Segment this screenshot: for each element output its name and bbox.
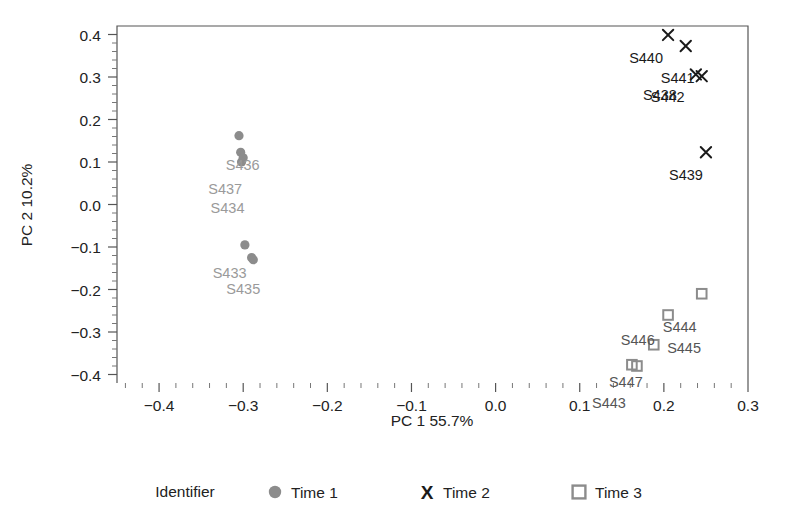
x-tick-label: 0.3 (737, 397, 759, 414)
x-tick-label: 0.0 (485, 397, 507, 414)
point-label-S434: S434 (211, 200, 245, 216)
legend-label-time-3[interactable]: Time 3 (595, 484, 642, 501)
pca-scatter-figure: −0.4−0.3−0.2−0.10.00.10.20.3 0.40.30.20.… (0, 0, 789, 526)
legend-label-time-1[interactable]: Time 1 (291, 484, 338, 501)
point-label-S444: S444 (663, 319, 697, 335)
data-point-time-1[interactable] (240, 240, 249, 249)
legend: IdentifierTime 1XTime 2Time 3 (155, 482, 642, 503)
y-tick-label: 0.2 (79, 112, 101, 129)
legend-marker-x-icon[interactable]: X (421, 482, 434, 503)
x-tick-label: −0.3 (228, 397, 259, 414)
point-label-S442: S442 (651, 89, 685, 105)
y-tick-label: −0.4 (70, 367, 101, 384)
x-tick-label: 0.1 (569, 397, 591, 414)
data-label-layer: S436S437S434S433S435S440S441S438S442S439… (208, 50, 703, 411)
legend-title: Identifier (155, 483, 214, 500)
legend-label-time-2[interactable]: Time 2 (443, 484, 490, 501)
point-label-S440: S440 (629, 50, 663, 66)
data-point-S444[interactable] (697, 289, 707, 299)
point-label-S445: S445 (667, 340, 701, 356)
point-label-S439: S439 (669, 167, 703, 183)
point-label-S441: S441 (661, 70, 695, 86)
data-point-S440[interactable] (663, 30, 673, 40)
data-point-layer (234, 30, 711, 371)
point-label-S436: S436 (226, 157, 260, 173)
point-label-S446: S446 (621, 332, 655, 348)
legend-marker-circle[interactable] (269, 486, 281, 498)
legend-marker-square[interactable] (573, 486, 586, 499)
y-tick-label: −0.2 (70, 282, 101, 299)
point-label-S447: S447 (609, 374, 643, 390)
data-point-S439[interactable] (701, 147, 711, 157)
x-tick-label: −0.4 (144, 397, 175, 414)
point-label-S435: S435 (226, 281, 260, 297)
data-point-time-1[interactable] (234, 131, 243, 140)
y-tick-label: −0.3 (70, 324, 101, 341)
data-point-S441[interactable] (681, 41, 691, 51)
y-tick-label: 0.1 (79, 154, 101, 171)
data-point-S435[interactable] (249, 255, 258, 264)
y-axis-tick-labels: 0.40.30.20.10.0−0.1−0.2−0.3−0.4 (70, 27, 101, 384)
y-tick-label: 0.3 (79, 69, 101, 86)
pca-plot-canvas: −0.4−0.3−0.2−0.10.00.10.20.3 0.40.30.20.… (0, 0, 789, 526)
point-label-S437: S437 (208, 181, 242, 197)
y-tick-label: 0.0 (79, 197, 101, 214)
x-axis-title: PC 1 55.7% (391, 412, 474, 429)
x-tick-label: −0.2 (312, 397, 343, 414)
y-tick-label: 0.4 (79, 27, 101, 44)
x-axis-ticks (125, 383, 748, 392)
x-tick-label: 0.2 (653, 397, 675, 414)
point-label-S443: S443 (592, 395, 626, 411)
y-axis-title: PC 2 10.2% (18, 163, 35, 246)
y-axis-ticks (108, 35, 117, 375)
y-tick-label: −0.1 (70, 239, 101, 256)
point-label-S433: S433 (213, 265, 247, 281)
